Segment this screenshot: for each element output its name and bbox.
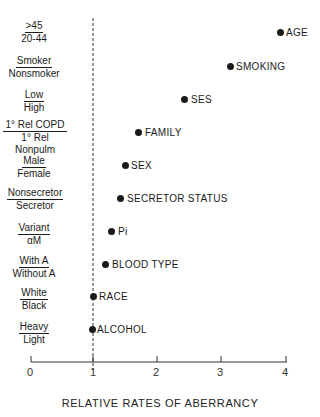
x-tick-label-3: 3 — [217, 366, 223, 378]
row-label-smoking: Smoker Nonsmoker — [8, 55, 60, 80]
comparison-top: Male — [22, 155, 46, 168]
data-point-pi — [108, 228, 115, 235]
data-point-secretor-status — [117, 195, 124, 202]
x-tick-label-0: 0 — [27, 366, 33, 378]
x-axis-title: RELATIVE RATES OF ABERRANCY — [0, 397, 320, 409]
x-tick-label-1: 1 — [90, 366, 96, 378]
chart: >45 20-44 Smoker Nonsmoker Low High 1° R… — [0, 0, 320, 417]
comparison-bottom: High — [8, 102, 60, 114]
point-label-alcohol: ALCOHOL — [97, 324, 147, 335]
comparison-top: >45 — [25, 20, 44, 33]
point-label-sex: SEX — [131, 160, 152, 171]
comparison-bottom: 1° Rel Nonpulm — [2, 132, 68, 156]
comparison-bottom: Light — [8, 334, 60, 346]
comparison-bottom: Nonsmoker — [8, 68, 60, 80]
data-point-age — [277, 29, 284, 36]
point-label-age: AGE — [286, 27, 308, 38]
point-label-smoking: SMOKING — [236, 61, 285, 72]
row-label-pi: Variant αM — [8, 222, 60, 247]
row-label-alcohol: Heavy Light — [8, 321, 60, 346]
row-label-blood-type: With A Without A — [8, 255, 60, 280]
data-point-sex — [122, 162, 129, 169]
point-label-ses: SES — [191, 94, 212, 105]
row-label-race: White Black — [8, 287, 60, 312]
comparison-bottom: Black — [8, 300, 60, 312]
data-point-blood-type — [102, 261, 109, 268]
row-label-age: >45 20-44 — [8, 20, 60, 45]
point-label-race: RACE — [99, 291, 128, 302]
x-tick-label-2: 2 — [153, 366, 159, 378]
x-tick-label-4: 4 — [282, 366, 288, 378]
row-label-ses: Low High — [8, 89, 60, 114]
comparison-bottom: Without A — [8, 268, 60, 280]
comparison-top: Variant — [18, 222, 51, 235]
point-label-family: FAMILY — [145, 127, 182, 138]
data-point-smoking — [227, 63, 234, 70]
row-label-secretor: Nonsecretor Secretor — [4, 187, 66, 212]
data-point-alcohol — [89, 326, 96, 333]
point-label-pi: Pi — [118, 226, 128, 237]
comparison-top: 1° Rel COPD — [3, 119, 66, 132]
comparison-top: Nonsecretor — [7, 187, 63, 200]
comparison-bottom: αM — [8, 235, 60, 247]
comparison-top: With A — [19, 255, 50, 268]
comparison-top: White — [20, 287, 48, 300]
data-point-ses — [181, 96, 188, 103]
point-label-secretor-status: SECRETOR STATUS — [127, 193, 228, 204]
comparison-top: Heavy — [19, 321, 49, 334]
row-label-sex: Male Female — [8, 155, 60, 180]
row-label-family: 1° Rel COPD 1° Rel Nonpulm — [2, 119, 68, 156]
comparison-bottom: Secretor — [4, 200, 66, 212]
comparison-bottom: Female — [8, 168, 60, 180]
point-label-blood-type: BLOOD TYPE — [112, 259, 179, 270]
data-point-family — [135, 129, 142, 136]
comparison-top: Low — [24, 89, 44, 102]
comparison-top: Smoker — [16, 55, 52, 68]
data-point-race — [90, 293, 97, 300]
comparison-bottom: 20-44 — [8, 33, 60, 45]
